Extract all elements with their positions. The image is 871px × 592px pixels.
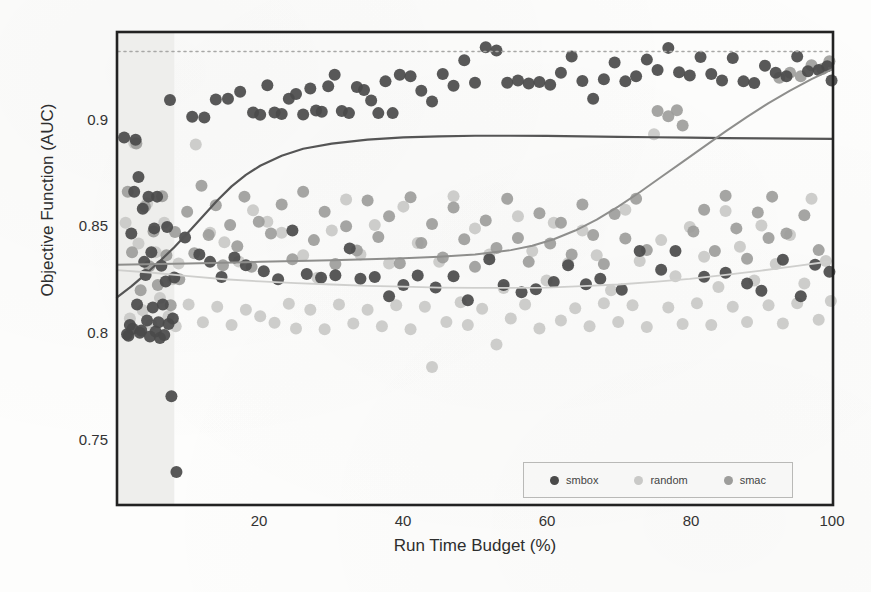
data-point-smac <box>308 234 320 246</box>
data-point-random <box>755 220 767 232</box>
data-point-smbox <box>741 278 753 290</box>
data-point-random <box>598 297 610 309</box>
data-point-random <box>605 284 617 296</box>
data-point-smac <box>780 228 792 240</box>
chart-figure: Objective Function (AUC) 0.9 0.85 0.8 0.… <box>0 0 871 592</box>
data-point-random <box>269 317 281 329</box>
data-point-smac <box>798 209 810 221</box>
data-point-smac <box>426 218 438 230</box>
data-point-smbox <box>272 273 284 285</box>
data-point-smbox <box>358 84 370 96</box>
data-point-smbox <box>153 316 165 328</box>
data-point-smbox <box>512 75 524 87</box>
data-point-smbox <box>158 329 170 341</box>
data-point-smac <box>224 219 236 231</box>
data-point-random <box>806 193 818 205</box>
data-point-smbox <box>354 273 366 285</box>
data-point-smbox <box>770 67 782 79</box>
data-point-smbox <box>412 270 424 282</box>
data-point-smbox <box>748 77 760 89</box>
data-point-smbox <box>458 54 470 66</box>
data-point-smac <box>587 229 599 241</box>
data-point-smac <box>362 195 374 207</box>
data-point-smbox <box>594 273 606 285</box>
data-point-smbox <box>580 278 592 290</box>
data-point-random <box>226 319 238 331</box>
data-point-smbox <box>727 52 739 64</box>
data-point-random <box>469 222 481 234</box>
data-point-random <box>698 251 710 263</box>
data-point-smbox <box>716 75 728 87</box>
data-point-smac <box>671 104 683 116</box>
data-point-random <box>813 314 825 326</box>
data-point-smbox <box>304 83 316 95</box>
data-point-smbox <box>132 171 144 183</box>
data-point-smbox <box>738 75 750 87</box>
data-point-smbox <box>634 245 646 257</box>
data-point-random <box>777 317 789 329</box>
data-point-random <box>376 320 388 332</box>
legend-entry-smac[interactable]: smac <box>724 474 766 486</box>
data-point-random <box>240 304 252 316</box>
data-point-smbox <box>145 246 157 258</box>
data-point-smbox <box>609 56 621 68</box>
data-point-smbox <box>669 245 681 257</box>
data-point-random <box>290 322 302 334</box>
scatter-points-layer <box>118 41 837 478</box>
data-point-smbox <box>720 267 732 279</box>
legend-entry-smbox[interactable]: smbox <box>550 474 598 486</box>
data-point-smbox <box>210 93 222 105</box>
data-point-smac <box>217 259 229 271</box>
data-point-smbox <box>301 268 313 280</box>
data-point-smbox <box>329 269 341 281</box>
data-point-random <box>655 234 667 246</box>
data-point-random <box>247 204 259 216</box>
data-point-smbox <box>380 75 392 87</box>
data-point-random <box>512 210 524 222</box>
data-point-random <box>612 316 624 328</box>
data-point-smac <box>763 232 775 244</box>
data-point-smbox <box>616 284 628 296</box>
data-point-random <box>326 225 338 237</box>
data-point-smbox <box>372 107 384 119</box>
data-point-random <box>662 302 674 314</box>
data-point-smbox <box>155 260 167 272</box>
data-point-smbox <box>128 186 140 198</box>
data-point-random <box>190 138 202 150</box>
data-point-random <box>705 319 717 331</box>
data-point-smbox <box>157 298 169 310</box>
legend-entry-random[interactable]: random <box>634 474 687 486</box>
data-point-random <box>712 281 724 293</box>
data-point-smac <box>598 258 610 270</box>
data-point-random <box>490 339 502 351</box>
data-point-smbox <box>322 80 334 92</box>
data-point-smac <box>126 246 138 258</box>
data-point-smac <box>619 233 631 245</box>
data-point-smbox <box>315 272 327 284</box>
legend-marker-random <box>634 476 643 485</box>
data-point-smbox <box>165 390 177 402</box>
data-point-smbox <box>204 256 216 268</box>
data-point-random <box>569 302 581 314</box>
data-point-smbox <box>619 75 631 87</box>
chart-legend[interactable]: smbox random smac <box>523 462 793 498</box>
data-point-random <box>333 298 345 310</box>
data-point-smbox <box>329 69 341 81</box>
data-point-smac <box>319 206 331 218</box>
legend-label-smbox: smbox <box>566 474 598 486</box>
data-point-random <box>476 303 488 315</box>
data-point-smac <box>566 248 578 260</box>
legend-label-random: random <box>650 474 687 486</box>
data-point-smbox <box>448 270 460 282</box>
data-point-random <box>448 190 460 202</box>
legend-label-smac: smac <box>740 474 766 486</box>
data-point-smbox <box>759 60 771 72</box>
data-point-smac <box>265 228 277 240</box>
data-point-random <box>641 321 653 333</box>
data-point-random <box>197 316 209 328</box>
data-point-smbox <box>394 69 406 81</box>
data-point-smbox <box>286 225 298 237</box>
data-point-smac <box>405 191 417 203</box>
data-point-smac <box>286 253 298 265</box>
plot-canvas <box>0 0 871 592</box>
